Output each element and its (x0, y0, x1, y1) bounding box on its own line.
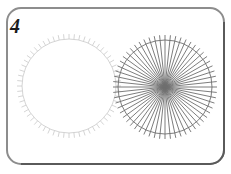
radial-tick (170, 35, 171, 40)
radial-tick (64, 133, 65, 138)
radial-tick (74, 133, 75, 138)
radial-tick (212, 82, 217, 83)
radial-tick (113, 82, 118, 83)
radial-tick (17, 91, 22, 92)
figure-number-label: 4 (10, 16, 20, 36)
rounded-rectangle-border (7, 8, 224, 164)
radial-tick (64, 34, 65, 39)
figure-canvas (0, 0, 231, 174)
radial-tick (212, 92, 217, 93)
figure-panel: 4 (0, 0, 231, 174)
radial-tick (160, 35, 161, 40)
radial-tick (160, 134, 161, 139)
radial-tick (74, 34, 75, 39)
radial-tick (170, 134, 171, 139)
radial-tick (113, 92, 118, 93)
radial-tick (17, 81, 22, 82)
